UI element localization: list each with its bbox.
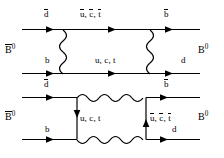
bottom-diagram-label-bbar: b <box>164 80 169 89</box>
top-diagram-right-state-B0: B0 <box>198 45 208 55</box>
top-diagram-label-d: d <box>181 56 186 65</box>
bottom-diagram-lower-w-boson <box>77 137 143 144</box>
top-diagram-label-bbar: b <box>164 10 169 19</box>
bottom-diagram-left-state-B0bar: B0 <box>5 112 15 122</box>
top-diagram-label-ubar-cbar-tbar: u, c, t <box>80 10 101 19</box>
top-diagram-upper-fermion-line <box>22 26 200 33</box>
top-diagram-label-dbar: d <box>44 10 49 19</box>
top-diagram-left-w-boson <box>60 30 67 74</box>
top-diagram-left-state-B0bar: B0 <box>5 45 15 55</box>
bottom-diagram-right-vertical-quark-line <box>143 98 150 140</box>
bottom-diagram-label-b: b <box>45 125 50 134</box>
top-diagram-label-u-c-t: u, c, t <box>95 56 116 65</box>
bottom-diagram-upper-left-fermion <box>22 94 77 101</box>
top-diagram-right-w-boson <box>147 30 154 74</box>
feynman-diagram-figure: d u, c, t b B0 B0 b u, c, t d d b B0 B0 … <box>0 0 224 158</box>
diagram-canvas <box>0 0 224 158</box>
bottom-diagram-upper-w-boson <box>77 95 143 102</box>
bottom-diagram-label-dbar: d <box>44 80 49 89</box>
bottom-diagram-lower-right-fermion <box>146 136 200 143</box>
bottom-diagram-upper-right-fermion <box>146 94 200 101</box>
bottom-diagram-right-state-B0: B0 <box>198 112 208 122</box>
bottom-diagram-label-d: d <box>172 125 177 134</box>
bottom-diagram-label-ubar-cbar-tbar: u, c, t <box>150 114 171 123</box>
top-diagram-label-b: b <box>45 56 50 65</box>
top-diagram-lower-fermion-line <box>22 70 200 77</box>
bottom-diagram-lower-left-fermion <box>22 136 77 143</box>
bottom-diagram-label-u-c-t: u, c, t <box>80 114 101 123</box>
